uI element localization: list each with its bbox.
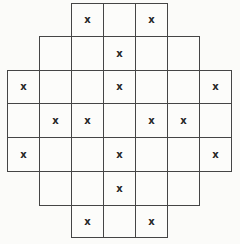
marked-cell: x	[103, 70, 136, 104]
puzzle-figure: xxxxxxxxxxxxxxxx	[0, 0, 240, 244]
puzzle-grid: xxxxxxxxxxxxxxxx	[0, 0, 240, 244]
empty-cell	[135, 171, 168, 206]
marked-cell: x	[103, 36, 136, 71]
empty-cell	[199, 103, 232, 138]
empty-cell	[135, 137, 168, 172]
x-mark: x	[180, 116, 186, 126]
empty-cell	[39, 171, 72, 206]
x-mark: x	[20, 150, 26, 160]
empty-cell	[167, 36, 200, 71]
empty-cell	[167, 137, 200, 172]
empty-cell	[167, 70, 200, 104]
empty-cell	[103, 3, 136, 37]
marked-cell: x	[199, 70, 232, 104]
empty-cell	[167, 171, 200, 206]
empty-cell	[103, 103, 136, 138]
x-mark: x	[84, 116, 90, 126]
empty-cell	[135, 36, 168, 71]
empty-cell	[39, 137, 72, 172]
empty-cell	[7, 103, 40, 138]
empty-cell	[103, 205, 136, 238]
x-mark: x	[212, 150, 218, 160]
empty-cell	[71, 137, 104, 172]
empty-cell	[135, 70, 168, 104]
x-mark: x	[116, 150, 122, 160]
x-mark: x	[148, 116, 154, 126]
x-mark: x	[116, 82, 122, 92]
marked-cell: x	[167, 103, 200, 138]
x-mark: x	[116, 49, 122, 59]
marked-cell: x	[7, 137, 40, 172]
marked-cell: x	[135, 103, 168, 138]
marked-cell: x	[135, 3, 168, 37]
empty-cell	[39, 36, 72, 71]
empty-cell	[71, 171, 104, 206]
empty-cell	[71, 70, 104, 104]
x-mark: x	[52, 116, 58, 126]
empty-cell	[39, 70, 72, 104]
x-mark: x	[84, 15, 90, 25]
marked-cell: x	[103, 171, 136, 206]
marked-cell: x	[71, 103, 104, 138]
x-mark: x	[212, 82, 218, 92]
marked-cell: x	[199, 137, 232, 172]
x-mark: x	[20, 82, 26, 92]
empty-cell	[71, 36, 104, 71]
marked-cell: x	[103, 137, 136, 172]
x-mark: x	[148, 217, 154, 227]
marked-cell: x	[7, 70, 40, 104]
x-mark: x	[84, 217, 90, 227]
x-mark: x	[116, 184, 122, 194]
x-mark: x	[148, 15, 154, 25]
marked-cell: x	[71, 205, 104, 238]
marked-cell: x	[39, 103, 72, 138]
marked-cell: x	[135, 205, 168, 238]
marked-cell: x	[71, 3, 104, 37]
